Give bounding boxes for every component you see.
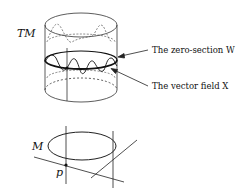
manifold-figure — [34, 126, 137, 188]
point-p — [64, 163, 67, 166]
tm-label: TM — [17, 27, 36, 40]
zero-section-label: The zero-section W — [152, 45, 235, 55]
vector-field-curve — [45, 55, 117, 74]
tangent-bundle-diagram — [0, 0, 245, 196]
m-label: M — [32, 140, 43, 153]
p-label: p — [56, 166, 63, 179]
vector-field-label: The vector field X — [152, 81, 228, 91]
zero-section-curve — [45, 51, 117, 69]
annotation-arrows — [111, 50, 148, 86]
zero-section-point — [65, 66, 68, 69]
